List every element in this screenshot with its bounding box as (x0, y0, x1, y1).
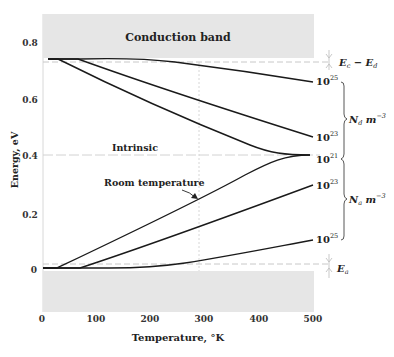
x-tick-300: 300 (195, 314, 214, 324)
arrow-head-icon (191, 193, 198, 199)
curve-donor-1e23 (48, 59, 313, 137)
conc-label-intrinsic-1e21: 1021 (316, 152, 338, 165)
na-label: Na m−3 (348, 192, 386, 207)
energy-level-chart: Conduction band Ec − Ed Ea 1025 1023 102… (0, 0, 394, 357)
donor-brace (341, 82, 347, 159)
nd-label: Nd m−3 (348, 112, 386, 127)
x-tick-400: 400 (250, 314, 269, 324)
x-axis-label: Temperature, °K (132, 332, 225, 344)
x-tick-0: 0 (39, 314, 45, 324)
y-axis-label: Energy, eV (9, 131, 21, 188)
conc-label-donor-1e25: 1025 (316, 74, 338, 87)
acceptor-brace (341, 159, 347, 240)
ec-ed-label: Ec − Ed (338, 57, 377, 70)
x-tick-500: 500 (304, 314, 323, 324)
y-tick-0.6: 0.6 (22, 95, 38, 105)
curve-acceptor-1e21 (43, 155, 310, 268)
conc-label-acceptor-1e25: 1025 (316, 232, 338, 245)
y-tick-0.4: 0.4 (22, 151, 38, 161)
x-tick-100: 100 (87, 314, 106, 324)
y-tick-0.2: 0.2 (22, 210, 38, 220)
ea-label: Ea (336, 263, 349, 276)
conc-label-donor-1e23: 1023 (316, 130, 338, 143)
curve-donor-1e21 (48, 59, 310, 155)
room-temperature-label: Room temperature (104, 177, 205, 188)
intrinsic-label: Intrinsic (112, 142, 158, 153)
valence-band-region (43, 271, 314, 312)
conduction-band-label: Conduction band (125, 31, 231, 44)
y-tick-0.8: 0.8 (22, 38, 38, 48)
x-tick-200: 200 (141, 314, 160, 324)
conc-label-acceptor-1e23: 1023 (316, 178, 338, 191)
y-tick-0: 0 (31, 265, 37, 275)
